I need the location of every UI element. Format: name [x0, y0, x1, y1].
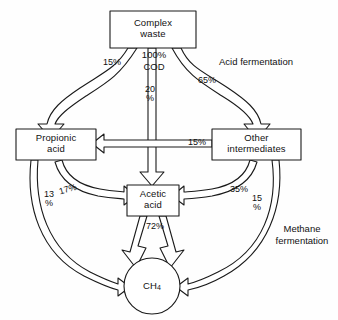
flow-arrow-other-to-methane	[176, 160, 280, 296]
caption-acid-fermentation: Acid fermentation	[206, 56, 306, 68]
flow-label-waste-to-acetic: 20 %	[142, 85, 158, 104]
flow-label-waste-to-other: 65%	[194, 76, 220, 85]
diagram-canvas	[0, 0, 338, 320]
flow-arrow-propionic-to-methane	[30, 160, 130, 296]
flow-arrow-propionic-to-acetic	[55, 160, 136, 205]
node-box-propionic-acid	[16, 129, 96, 160]
flow-label-propionic-to-methane: 13 %	[41, 190, 57, 209]
node-box-other-intermediates	[212, 129, 301, 160]
flow-label-other-to-methane: 15 %	[249, 194, 265, 213]
node-box-acetic-acid	[127, 185, 179, 216]
flow-arrow-other-to-acetic	[172, 160, 257, 205]
node-box-complex-waste	[110, 11, 196, 48]
process-flow-diagram: Complex waste Propionic acid Other inter…	[0, 0, 338, 320]
caption-cod-basis: 100% COD	[128, 49, 180, 73]
flow-label-waste-to-propionic: 15%	[99, 58, 125, 67]
flow-label-other-to-propionic: 15%	[185, 138, 209, 147]
caption-methane-fermentation: Methane fermentation	[268, 223, 336, 247]
flow-label-acetic-to-methane: 72%	[142, 222, 168, 231]
node-circle-methane	[124, 258, 180, 314]
